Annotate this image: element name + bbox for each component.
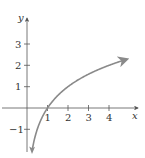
log-graph: 1 2 3 4 3 2 1 −1 x y xyxy=(0,0,145,158)
x-tick-label-2: 2 xyxy=(65,112,71,123)
log-curve xyxy=(32,59,126,149)
y-tick-label-2: 2 xyxy=(15,60,21,71)
x-axis-label: x xyxy=(132,110,138,121)
y-axis-label: y xyxy=(17,12,24,23)
x-tick-label-3: 3 xyxy=(86,112,92,123)
y-tick-label-3: 3 xyxy=(15,39,21,50)
y-tick-label-neg1: −1 xyxy=(9,124,24,135)
x-tick-label-1: 1 xyxy=(45,112,51,123)
x-tick-label-4: 4 xyxy=(106,112,112,123)
y-tick-label-1: 1 xyxy=(15,81,21,92)
